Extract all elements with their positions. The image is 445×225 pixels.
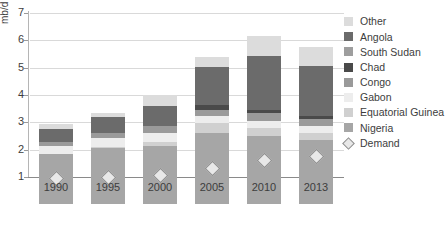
x-axis-tick-1990: 1990	[26, 181, 86, 193]
legend-diamond-icon-demand	[344, 139, 353, 148]
bar-segment-gabon	[143, 133, 177, 142]
legend-label-gabon: Gabon	[360, 92, 392, 103]
legend-label-chad: Chad	[360, 62, 385, 73]
bar-segment-equatorial-guinea	[299, 133, 333, 140]
legend-item-chad[interactable]: Chad	[344, 60, 444, 75]
bar-segment-angola	[91, 117, 125, 133]
legend-swatch-gabon	[344, 93, 353, 102]
bar-segment-gabon	[39, 146, 73, 153]
x-axis-tick-1995: 1995	[78, 181, 138, 193]
bar-segment-congo	[299, 119, 333, 126]
bar-segment-congo	[195, 110, 229, 117]
legend-swatch-south-sudan	[344, 47, 353, 56]
y-axis-line	[28, 11, 29, 178]
bar-segment-angola	[143, 106, 177, 127]
legend-swatch-equatorial-guinea	[344, 108, 353, 117]
y-axis-tick-5: 5	[0, 62, 24, 73]
y-axis-tick-2: 2	[0, 144, 24, 155]
legend-label-other: Other	[360, 16, 386, 27]
bar-segment-gabon	[247, 121, 281, 128]
x-axis-tick-2010: 2010	[234, 181, 294, 193]
x-axis-tick-2005: 2005	[182, 181, 242, 193]
legend-label-nigeria: Nigeria	[360, 123, 393, 134]
chart-legend: OtherAngolaSouth SudanChadCongoGabonEqua…	[344, 14, 444, 151]
bar-segment-congo	[247, 113, 281, 121]
legend-swatch-nigeria	[344, 123, 353, 132]
bar-segment-angola	[39, 129, 73, 143]
legend-label-south-sudan: South Sudan	[360, 47, 421, 58]
legend-item-south-sudan[interactable]: South Sudan	[344, 44, 444, 59]
legend-item-congo[interactable]: Congo	[344, 75, 444, 90]
bar-segment-congo	[143, 126, 177, 133]
legend-swatch-chad	[344, 63, 353, 72]
legend-item-nigeria[interactable]: Nigeria	[344, 120, 444, 135]
legend-swatch-other	[344, 17, 353, 26]
legend-label-demand: Demand	[360, 138, 400, 149]
legend-item-angola[interactable]: Angola	[344, 29, 444, 44]
y-axis-tick-1: 1	[0, 171, 24, 182]
legend-label-equatorial-guinea: Equatorial Guinea	[360, 107, 444, 118]
legend-swatch-congo	[344, 78, 353, 87]
bar-segment-angola	[247, 56, 281, 109]
bar-segment-equatorial-guinea	[247, 128, 281, 136]
legend-label-congo: Congo	[360, 77, 391, 88]
y-axis-tick-3: 3	[0, 116, 24, 127]
bar-segment-other	[195, 57, 229, 67]
x-axis-line	[28, 177, 344, 178]
legend-item-gabon[interactable]: Gabon	[344, 90, 444, 105]
bar-segment-other	[247, 36, 281, 56]
y-axis-tick-4: 4	[0, 89, 24, 100]
bar-segment-equatorial-guinea	[195, 123, 229, 133]
legend-item-equatorial-guinea[interactable]: Equatorial Guinea	[344, 105, 444, 120]
legend-item-other[interactable]: Other	[344, 14, 444, 29]
bar-segment-gabon	[91, 138, 125, 147]
bar-segment-angola	[299, 66, 333, 117]
legend-label-angola: Angola	[360, 32, 393, 43]
bar-segment-other	[299, 47, 333, 66]
bar-segment-gabon	[195, 116, 229, 123]
legend-item-demand[interactable]: Demand	[344, 136, 444, 151]
plot-area	[30, 13, 342, 177]
x-axis-tick-2013: 2013	[286, 181, 346, 193]
bar-2010[interactable]	[247, 36, 281, 204]
y-axis-tick-7: 7	[0, 7, 24, 18]
x-axis-tick-2000: 2000	[130, 181, 190, 193]
bar-segment-other	[143, 95, 177, 106]
legend-swatch-angola	[344, 32, 353, 41]
bar-segment-angola	[195, 67, 229, 105]
y-axis-tick-6: 6	[0, 34, 24, 45]
chart-container: mb/d 7654321 199019952000200520102013 Ot…	[0, 0, 445, 225]
bar-segment-nigeria	[247, 136, 281, 204]
